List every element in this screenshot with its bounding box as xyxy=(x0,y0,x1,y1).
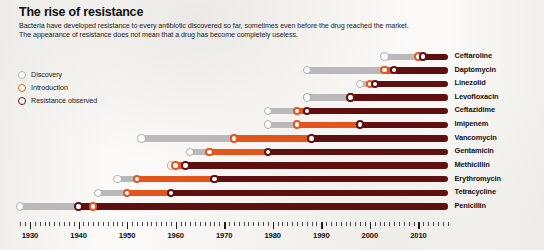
axis-tick-minor xyxy=(278,222,279,226)
axis-tick-minor xyxy=(409,222,410,226)
axis-tick-minor xyxy=(161,222,162,226)
axis-tick-label: 1930 xyxy=(22,231,39,240)
axis-tick-major xyxy=(321,222,322,229)
axis-tick-minor xyxy=(54,222,55,226)
axis-tick-minor xyxy=(302,222,303,226)
axis-tick-minor xyxy=(185,222,186,226)
infographic-sheet: The rise of resistance Bacteria have dev… xyxy=(0,0,544,250)
axis-tick-minor xyxy=(113,222,114,226)
axis-tick-minor xyxy=(297,222,298,226)
axis-tick-label: 1940 xyxy=(70,231,87,240)
axis-tick-minor xyxy=(375,222,376,226)
axis-tick-minor xyxy=(64,222,65,226)
axis-tick-minor xyxy=(117,222,118,226)
axis-tick-minor xyxy=(156,222,157,226)
axis-tick-minor xyxy=(151,222,152,226)
axis-tick-minor xyxy=(103,222,104,226)
axis-tick-minor xyxy=(443,222,444,226)
axis-tick-minor xyxy=(365,222,366,226)
axis-tick-minor xyxy=(25,222,26,226)
axis-tick-label: 2010 xyxy=(410,231,427,240)
axis-tick-minor xyxy=(195,222,196,226)
axis-tick-minor xyxy=(205,222,206,226)
axis-tick-minor xyxy=(341,222,342,226)
axis-tick-minor xyxy=(69,222,70,226)
axis-tick-major xyxy=(127,222,128,229)
axis-tick-minor xyxy=(137,222,138,226)
axis-tick-major xyxy=(370,222,371,229)
axis-tick-minor xyxy=(438,222,439,226)
axis-tick-label: 1950 xyxy=(119,231,136,240)
axis-tick-minor xyxy=(282,222,283,226)
axis-tick-minor xyxy=(384,222,385,226)
axis-tick-minor xyxy=(93,222,94,226)
axis-tick-label: 2000 xyxy=(362,231,379,240)
axis-tick-minor xyxy=(433,222,434,226)
axis-tick-major xyxy=(418,222,419,229)
axis-tick-minor xyxy=(287,222,288,226)
axis-tick-minor xyxy=(360,222,361,226)
axis-tick-minor xyxy=(331,222,332,226)
axis-tick-minor xyxy=(181,222,182,226)
axis-tick-minor xyxy=(316,222,317,226)
axis-tick-minor xyxy=(355,222,356,226)
axis-tick-minor xyxy=(404,222,405,226)
axis-tick-minor xyxy=(414,222,415,226)
axis-tick-minor xyxy=(171,222,172,226)
axis-tick-minor xyxy=(292,222,293,226)
axis-tick-major xyxy=(30,222,31,229)
axis-tick-minor xyxy=(312,222,313,226)
axis-tick-label: 1990 xyxy=(313,231,330,240)
axis-tick-minor xyxy=(132,222,133,226)
axis-tick-minor xyxy=(389,222,390,226)
axis-tick-minor xyxy=(346,222,347,226)
axis-tick-minor xyxy=(263,222,264,226)
axis-tick-minor xyxy=(74,222,75,226)
axis-tick-minor xyxy=(210,222,211,226)
axis-tick-minor xyxy=(234,222,235,226)
axis-tick-label: 1970 xyxy=(216,231,233,240)
x-axis: 193019401950196019701980199020002010 xyxy=(0,0,544,250)
axis-tick-minor xyxy=(88,222,89,226)
axis-tick-major xyxy=(79,222,80,229)
axis-tick-minor xyxy=(307,222,308,226)
axis-tick-minor xyxy=(253,222,254,226)
axis-tick-minor xyxy=(49,222,50,226)
axis-tick-major xyxy=(224,222,225,229)
axis-tick-minor xyxy=(83,222,84,226)
axis-tick-minor xyxy=(229,222,230,226)
axis-tick-minor xyxy=(326,222,327,226)
axis-tick-minor xyxy=(239,222,240,226)
axis-tick-minor xyxy=(108,222,109,226)
axis-tick-minor xyxy=(40,222,41,226)
axis-tick-minor xyxy=(190,222,191,226)
axis-tick-major xyxy=(176,222,177,229)
axis-tick-minor xyxy=(258,222,259,226)
axis-tick-label: 1980 xyxy=(265,231,282,240)
axis-tick-minor xyxy=(122,222,123,226)
axis-tick-minor xyxy=(423,222,424,226)
axis-tick-minor xyxy=(142,222,143,226)
axis-tick-minor xyxy=(350,222,351,226)
axis-tick-minor xyxy=(428,222,429,226)
axis-tick-label: 1960 xyxy=(167,231,184,240)
axis-tick-minor xyxy=(20,222,21,226)
axis-tick-minor xyxy=(147,222,148,226)
axis-tick-minor xyxy=(98,222,99,226)
axis-tick-minor xyxy=(244,222,245,226)
axis-tick-minor xyxy=(166,222,167,226)
axis-tick-minor xyxy=(394,222,395,226)
axis-tick-minor xyxy=(35,222,36,226)
axis-tick-minor xyxy=(59,222,60,226)
axis-tick-minor xyxy=(248,222,249,226)
axis-tick-minor xyxy=(336,222,337,226)
axis-tick-minor xyxy=(268,222,269,226)
axis-tick-minor xyxy=(200,222,201,226)
axis-tick-minor xyxy=(214,222,215,226)
axis-tick-minor xyxy=(45,222,46,226)
axis-tick-major xyxy=(273,222,274,229)
axis-tick-minor xyxy=(219,222,220,226)
axis-tick-minor xyxy=(380,222,381,226)
axis-tick-minor xyxy=(399,222,400,226)
axis-tick-minor xyxy=(448,222,449,226)
